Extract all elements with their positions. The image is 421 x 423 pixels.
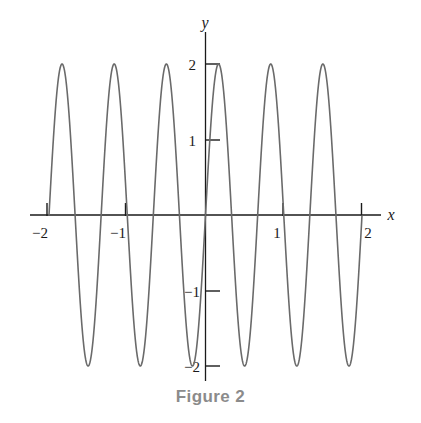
x-axis-label: x [386, 206, 394, 223]
plot-area: −2 −1 1 2 2 1 −1 −2 x y [0, 0, 421, 390]
y-axis-label: y [199, 14, 209, 32]
y-tick-label-pos2: 2 [189, 57, 197, 73]
y-tick-label-pos1: 1 [189, 133, 197, 149]
y-tick-label-neg2: −2 [184, 359, 200, 375]
x-tick-label-pos2: 2 [364, 225, 372, 241]
figure-caption: Figure 2 [0, 387, 421, 407]
y-tick-label-neg1: −1 [184, 284, 200, 300]
x-tick-label-neg2: −2 [32, 225, 48, 241]
figure-container: −2 −1 1 2 2 1 −1 −2 x y Figure 2 [0, 0, 421, 423]
x-tick-label-neg1: −1 [110, 225, 126, 241]
x-tick-label-pos1: 1 [273, 225, 281, 241]
graph-svg: −2 −1 1 2 2 1 −1 −2 x y [0, 0, 421, 390]
